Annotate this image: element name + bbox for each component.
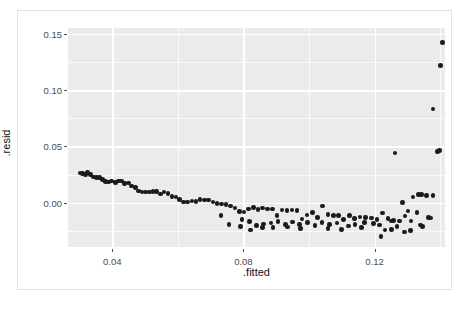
x-axis-ticks: 0.040.080.12 bbox=[0, 0, 467, 309]
x-tick-mark bbox=[112, 249, 113, 252]
plot-area: 0.000.050.100.15 0.040.080.12 .resid .fi… bbox=[0, 0, 467, 309]
x-axis-title: .fitted bbox=[68, 266, 445, 278]
x-tick-mark bbox=[243, 249, 244, 252]
x-tick-mark bbox=[375, 249, 376, 252]
residuals-vs-fitted-chart: 0.000.050.100.15 0.040.080.12 .resid .fi… bbox=[0, 0, 467, 309]
y-axis-title: .resid bbox=[0, 130, 12, 157]
